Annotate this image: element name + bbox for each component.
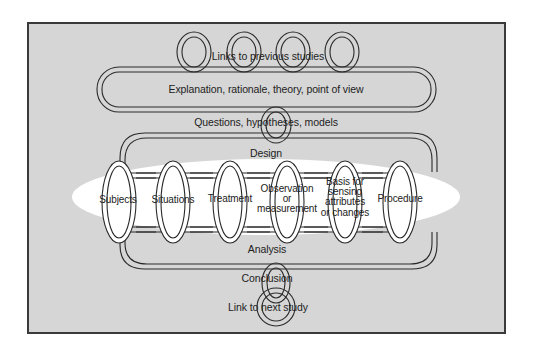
label-subjects: Subjects	[99, 195, 137, 205]
label-basis: Basis for sensing attributes or changes	[321, 177, 369, 218]
label-analysis: Analysis	[248, 244, 286, 255]
label-explanation: Explanation, rationale, theory, point of…	[169, 84, 364, 95]
label-observation-line3: measurement	[257, 204, 317, 214]
label-situations: Situations	[152, 195, 195, 205]
label-conclusion: Conclusion	[242, 273, 293, 284]
label-procedure: Procedure	[377, 194, 422, 204]
label-observation: Observation or measurement	[257, 184, 317, 215]
label-basis-line4: or changes	[321, 207, 369, 217]
label-design: Design	[250, 148, 282, 159]
label-treatment: Treatment	[208, 194, 252, 204]
label-questions: Questions, hypotheses, models	[194, 117, 338, 128]
label-link-next: Link to next study	[228, 302, 308, 313]
label-links-previous: Links to previous studies	[212, 51, 324, 62]
